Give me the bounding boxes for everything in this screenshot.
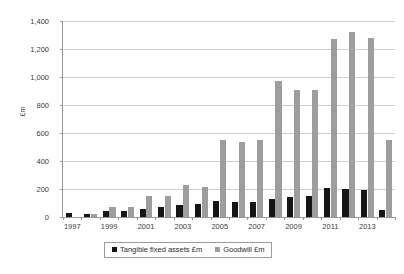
bar-group (342, 21, 355, 217)
bar-tangible-fixed-assets[interactable] (195, 204, 201, 217)
bar-group (121, 21, 134, 217)
x-tick-label: 2005 (211, 222, 228, 231)
x-tick-mark (229, 217, 230, 220)
bar-goodwill[interactable] (294, 90, 300, 217)
x-tick-label: 2009 (285, 222, 302, 231)
bar-goodwill[interactable] (165, 196, 171, 217)
bar-group (269, 21, 282, 217)
goodwill-swatch-icon (215, 247, 220, 252)
y-axis-title: £m (19, 92, 26, 132)
bar-goodwill[interactable] (239, 142, 245, 217)
bar-group (195, 21, 208, 217)
bar-tangible-fixed-assets[interactable] (140, 209, 146, 217)
bar-tangible-fixed-assets[interactable] (306, 196, 312, 217)
bar-group (140, 21, 153, 217)
bar-tangible-fixed-assets[interactable] (176, 205, 182, 217)
x-tick-mark (192, 217, 193, 220)
bar-group (103, 21, 116, 217)
bar-tangible-fixed-assets[interactable] (158, 207, 164, 217)
legend-label: Goodwill £m (223, 245, 264, 254)
bar-goodwill[interactable] (128, 207, 134, 217)
x-tick-mark (358, 217, 359, 220)
bar-group (306, 21, 319, 217)
bar-goodwill[interactable] (368, 38, 374, 217)
bar-tangible-fixed-assets[interactable] (250, 202, 256, 217)
x-tick-mark (284, 217, 285, 220)
bar-tangible-fixed-assets[interactable] (287, 197, 293, 217)
bars-layer (63, 21, 395, 217)
bar-tangible-fixed-assets[interactable] (361, 190, 367, 217)
bar-goodwill[interactable] (109, 207, 115, 217)
bar-goodwill[interactable] (183, 185, 189, 217)
bar-group (324, 21, 337, 217)
x-tick-mark (340, 217, 341, 220)
bar-tangible-fixed-assets[interactable] (232, 202, 238, 217)
x-tick-mark (211, 217, 212, 220)
x-tick-label: 1999 (101, 222, 118, 231)
bar-goodwill[interactable] (349, 32, 355, 217)
tangible-swatch-icon (112, 247, 117, 252)
x-tick-mark (137, 217, 138, 220)
y-tick-label: 800 (9, 101, 49, 110)
bar-goodwill[interactable] (202, 187, 208, 217)
bar-tangible-fixed-assets[interactable] (324, 188, 330, 217)
x-tick-label: 2003 (175, 222, 192, 231)
bar-group (213, 21, 226, 217)
x-tick-label: 2001 (138, 222, 155, 231)
bar-tangible-fixed-assets[interactable] (213, 201, 219, 217)
bar-tangible-fixed-assets[interactable] (379, 210, 385, 217)
plot-area: 02004006008001,0001,2001,400 19971999200… (62, 21, 395, 218)
bar-chart: £m 02004006008001,0001,2001,400 19971999… (0, 0, 404, 274)
legend-label: Tangible fixed assets £m (120, 245, 202, 254)
bar-tangible-fixed-assets[interactable] (66, 213, 72, 217)
bar-tangible-fixed-assets[interactable] (269, 199, 275, 217)
x-tick-mark (377, 217, 378, 220)
x-tick-mark (155, 217, 156, 220)
bar-group (287, 21, 300, 217)
x-tick-mark (81, 217, 82, 220)
x-tick-mark (247, 217, 248, 220)
bar-goodwill[interactable] (257, 140, 263, 217)
y-tick-label: 600 (9, 129, 49, 138)
bar-group (176, 21, 189, 217)
y-tick-label: 1,200 (9, 45, 49, 54)
y-tick-label: 0 (9, 213, 49, 222)
bar-group (361, 21, 374, 217)
bar-group (250, 21, 263, 217)
x-tick-label: 2013 (359, 222, 376, 231)
bar-goodwill[interactable] (91, 214, 97, 217)
bar-goodwill[interactable] (386, 140, 392, 217)
x-tick-label: 2007 (248, 222, 265, 231)
y-tick-label: 200 (9, 185, 49, 194)
x-tick-label: 1997 (64, 222, 81, 231)
bar-tangible-fixed-assets[interactable] (84, 214, 90, 218)
bar-group (232, 21, 245, 217)
bar-group (66, 21, 79, 217)
x-tick-mark (100, 217, 101, 220)
x-tick-mark (266, 217, 267, 220)
bar-group (158, 21, 171, 217)
bar-goodwill[interactable] (220, 140, 226, 217)
bar-tangible-fixed-assets[interactable] (103, 211, 109, 217)
x-tick-mark (321, 217, 322, 220)
x-tick-mark (118, 217, 119, 220)
legend-entry[interactable]: Tangible fixed assets £m (112, 245, 202, 254)
bar-group (84, 21, 97, 217)
bar-group (379, 21, 392, 217)
x-tick-mark (63, 217, 64, 220)
chart-legend: Tangible fixed assets £mGoodwill £m (104, 242, 272, 258)
x-tick-mark (303, 217, 304, 220)
bar-goodwill[interactable] (331, 39, 337, 217)
x-tick-mark (174, 217, 175, 220)
bar-tangible-fixed-assets[interactable] (342, 189, 348, 217)
y-tick-label: 1,000 (9, 73, 49, 82)
bar-goodwill[interactable] (312, 90, 318, 217)
x-tick-mark (395, 217, 396, 220)
bar-tangible-fixed-assets[interactable] (121, 211, 127, 217)
y-tick-label: 1,400 (9, 17, 49, 26)
y-tick-label: 400 (9, 157, 49, 166)
bar-goodwill[interactable] (275, 81, 281, 218)
legend-entry[interactable]: Goodwill £m (215, 245, 264, 254)
x-tick-label: 2011 (322, 222, 338, 231)
bar-goodwill[interactable] (146, 196, 152, 217)
